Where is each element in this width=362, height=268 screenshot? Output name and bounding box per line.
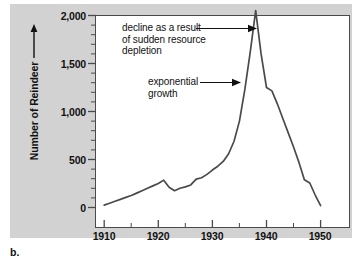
exponential-annotation-arrow-icon: [200, 79, 241, 86]
decline-annotation-arrow-icon: [196, 25, 257, 32]
chart-graphics: [10, 4, 352, 238]
figure-panel: 2,000 1,500 1,000 500 0 1910 1920 1930 1…: [10, 4, 352, 238]
x-axis-major-ticks: [104, 220, 320, 228]
data-line-reindeer-population: [104, 11, 320, 206]
figure-letter-label: b.: [10, 246, 19, 258]
